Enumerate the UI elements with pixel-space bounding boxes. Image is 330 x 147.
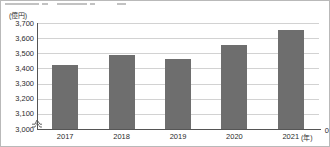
gridline — [37, 53, 319, 54]
x-axis-line — [37, 129, 321, 130]
header-text-fragment — [90, 3, 95, 5]
header-text-fragment — [117, 3, 126, 5]
bar — [165, 59, 191, 129]
x-axis-tick-label: 2021 — [271, 132, 311, 141]
y-axis-tick-label: 3,100 — [15, 110, 34, 117]
y-axis-tick-labels: 3,7003,6003,5003,4003,3003,2003,1003,000 — [1, 1, 34, 147]
plot-area — [37, 23, 319, 129]
gridline — [37, 23, 319, 24]
y-axis-line — [37, 23, 38, 129]
y-axis-tick-label: 3,400 — [15, 65, 34, 72]
bar — [109, 55, 135, 129]
gridline — [37, 38, 319, 39]
x-axis-tick-label: 2018 — [102, 132, 142, 141]
y-axis-tick-label: 3,500 — [15, 50, 34, 57]
bar — [278, 30, 304, 129]
bar — [52, 65, 78, 129]
y-axis-tick-label: 3,300 — [15, 80, 34, 87]
y-axis-tick-label: 3,700 — [15, 20, 34, 27]
header-text-fragment — [57, 3, 87, 5]
x-axis-tick-label: 2017 — [45, 132, 85, 141]
y-axis-zero-label: 0 — [325, 126, 329, 135]
x-axis-tick-label: 2019 — [158, 132, 198, 141]
y-axis-tick-label: 3,200 — [15, 95, 34, 102]
header-text-fragment — [42, 3, 48, 5]
bar — [221, 45, 247, 129]
bar-chart: (億円) 3,7003,6003,5003,4003,3003,2003,100… — [0, 0, 330, 147]
y-axis-tick-label: 3,600 — [15, 35, 34, 42]
x-axis-tick-label: 2020 — [214, 132, 254, 141]
